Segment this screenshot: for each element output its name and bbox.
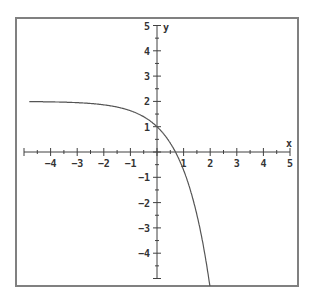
y-axis-label: y	[163, 22, 169, 33]
y-tick-label: −4	[138, 248, 150, 259]
y-tick-label: −3	[138, 223, 150, 234]
x-tick-label: 5	[287, 158, 293, 169]
y-tick-label: 1	[144, 122, 150, 133]
tick-marks	[24, 26, 290, 279]
y-tick-label: 3	[144, 71, 150, 82]
x-tick-label: 4	[260, 158, 266, 169]
y-tick-label: −1	[138, 172, 150, 183]
y-tick-label: 4	[144, 46, 150, 57]
y-tick-label: −2	[138, 198, 150, 209]
x-tick-label: −4	[45, 158, 57, 169]
function-plot: −4−3−2−11234554321−1−2−3−4 x y	[0, 0, 311, 297]
x-tick-label: 2	[207, 158, 213, 169]
x-tick-label: 3	[234, 158, 240, 169]
x-tick-label: −1	[124, 158, 136, 169]
y-tick-label: 5	[144, 21, 150, 32]
function-curve	[29, 102, 210, 286]
x-tick-label: −3	[71, 158, 83, 169]
y-tick-label: 2	[144, 96, 150, 107]
x-axis-label: x	[286, 138, 292, 149]
x-tick-label: −2	[98, 158, 110, 169]
